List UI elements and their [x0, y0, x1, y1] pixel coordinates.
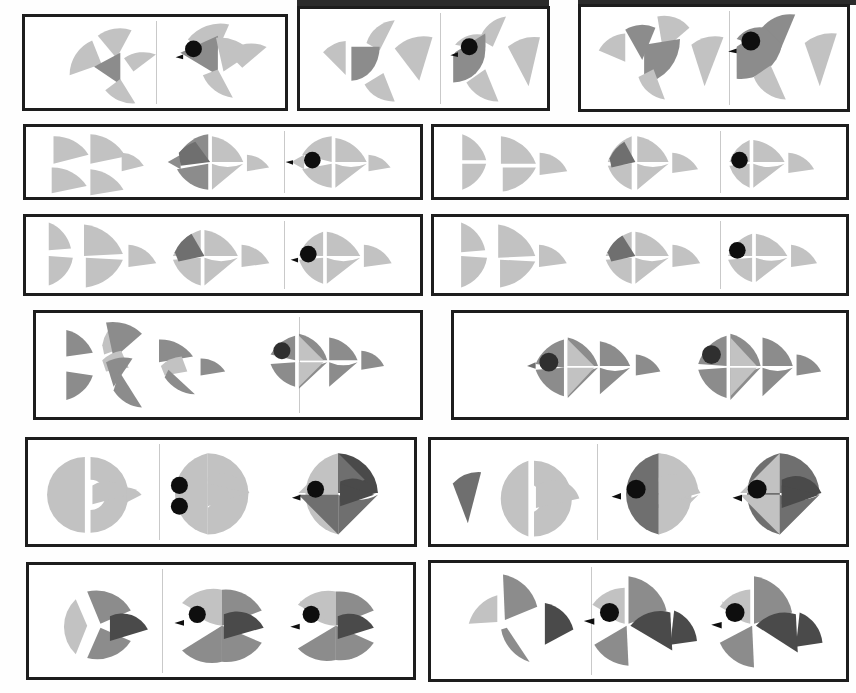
figure-group-r5-p1 [28, 440, 414, 544]
fish-finished-angular [176, 24, 267, 98]
fish-exploded-three-triangle [462, 134, 567, 191]
fish-eye [731, 152, 748, 169]
panel-r5-p2[interactable] [428, 437, 849, 547]
fish-assembled-butterflyfish [171, 453, 249, 534]
fish-eye [702, 345, 721, 364]
fish-eye [304, 152, 321, 169]
fish-assembled-butterflyfish-two-tone [612, 453, 701, 534]
panel-r1-p1[interactable] [22, 14, 288, 111]
fish-finished-angelfish-right [698, 334, 821, 400]
figure-group-r1-p3 [581, 7, 847, 109]
fish-eye [729, 242, 746, 259]
panel-r4-p1[interactable] [33, 310, 423, 420]
fish-exploded-four-triangle [52, 134, 144, 195]
fish-finished-bowtie-variant [728, 234, 817, 282]
fish-eye-lower [171, 498, 188, 515]
fish-exploded-pinwheel-tilted [469, 574, 574, 661]
panel-r1-p3[interactable] [578, 4, 850, 112]
fish-assembled-pinwheel-tilted [584, 576, 697, 665]
fish-exploded-bowtie-variant [461, 223, 567, 288]
fish-exploded-quarterdisc [599, 16, 724, 100]
fish-eye [726, 603, 745, 622]
fish-mouth [584, 618, 594, 625]
fish-finished-pinwheel [290, 591, 374, 661]
figure-group-r6-p1 [29, 565, 413, 677]
figure-group-r2-p1 [26, 127, 420, 197]
figure-group-r2-p2 [434, 127, 846, 197]
panel-r2-p2[interactable] [431, 124, 849, 200]
fish-finished-quarterdisc [728, 14, 837, 99]
fish-mouth [290, 624, 299, 630]
panel-r6-p2[interactable] [428, 560, 849, 682]
fish-mouth [728, 49, 737, 54]
fish-exploded-angelfish [66, 322, 225, 408]
figure-group-r5-p2 [431, 440, 846, 544]
fish-assembled-bowtie-variant [606, 232, 701, 284]
fish-mouth [292, 495, 301, 501]
fish-eye [307, 481, 324, 498]
panel-r3-p1[interactable] [23, 214, 423, 296]
panel-r4-p2[interactable] [451, 310, 849, 420]
panel-r3-p2[interactable] [431, 214, 849, 296]
fish-mouth [733, 495, 742, 502]
figure-group-r6-p2 [431, 563, 846, 679]
fish-finished-butterflyfish-colored [292, 453, 378, 534]
fish-assembled-four-triangle [168, 134, 269, 189]
fish-eye [185, 40, 202, 57]
fish-exploded-halfdisc [323, 20, 432, 101]
fish-exploded-butterflyfish-two-tone [453, 461, 580, 537]
fish-eye [189, 606, 206, 623]
fish-eye [273, 342, 290, 359]
fish-assembled-three-triangle [608, 136, 698, 189]
fish-mouth [612, 493, 621, 500]
fish-eye [539, 353, 558, 372]
fish-eye [300, 246, 317, 263]
fish-finished-four-triangle [286, 136, 391, 188]
figure-group-r3-p2 [434, 217, 846, 293]
fish-mouth [286, 160, 293, 165]
fish-finished-bowtie [291, 232, 392, 284]
fish-mouth [527, 362, 536, 369]
fish-assembled-pinwheel [174, 589, 263, 663]
fish-eye [741, 32, 760, 51]
fish-mouth [176, 55, 184, 60]
fish-finished-angelfish-left [527, 338, 660, 399]
panel-r5-p1[interactable] [25, 437, 417, 547]
fish-eye [748, 480, 767, 499]
fish-mouth [291, 258, 298, 263]
fish-mouth [711, 622, 721, 629]
fish-finished-pinwheel-tilted [711, 576, 822, 667]
fish-exploded-butterflyfish [47, 457, 142, 533]
panel-r6-p1[interactable] [26, 562, 416, 680]
fish-assembled-bowtie [173, 230, 269, 286]
fish-mouth [174, 620, 183, 626]
fish-finished-halfdisc [450, 17, 540, 102]
fish-exploded-pinwheel [64, 591, 148, 660]
panel-r2-p1[interactable] [23, 124, 423, 200]
fish-eye-upper [171, 477, 188, 494]
fish-exploded-angular [70, 28, 156, 103]
fish-finished-angelfish [271, 334, 384, 389]
figure-group-r3-p1 [26, 217, 420, 293]
fish-eye [461, 38, 478, 55]
fish-eye [303, 606, 320, 623]
fish-exploded-bowtie [49, 223, 157, 288]
panel-r1-p2[interactable] [297, 6, 550, 111]
figure-group-r4-p1 [36, 313, 420, 417]
fish-finished-butterflyfish-two-tone [733, 453, 822, 534]
figure-group-r1-p1 [25, 17, 285, 108]
illustration-sheet [0, 0, 856, 693]
figure-group-r1-p2 [300, 9, 547, 108]
figure-group-r4-p2 [454, 313, 846, 417]
fish-eye [600, 603, 619, 622]
fish-finished-three-triangle [729, 140, 814, 188]
fish-eye [627, 480, 646, 499]
